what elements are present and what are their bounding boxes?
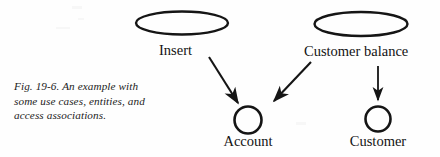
entity-label-account: Account — [211, 133, 285, 149]
association-arrow-customer-balance-to-account — [274, 62, 311, 101]
use-case-ellipse-customer-balance — [315, 12, 408, 36]
figure-canvas: Insert Customer balance Account Customer… — [0, 0, 440, 157]
entity-label-customer: Customer — [338, 133, 418, 149]
entity-circle-account — [235, 107, 262, 134]
use-case-ellipse-insert — [136, 12, 228, 35]
use-case-label-customer-balance: Customer balance — [304, 43, 408, 59]
association-arrow-insert-to-account — [209, 57, 238, 103]
entity-circle-customer — [366, 107, 391, 132]
figure-caption: Fig. 19-6. An example with some use case… — [14, 79, 164, 123]
use-case-label-insert: Insert — [159, 42, 192, 58]
